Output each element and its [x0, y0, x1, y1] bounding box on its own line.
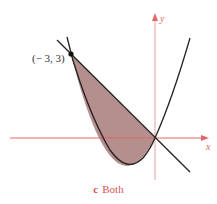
- caption-text: Both: [102, 183, 123, 195]
- intersection-point: [68, 51, 73, 56]
- point-label: (− 3, 3): [32, 52, 65, 65]
- x-axis-label: x: [205, 141, 211, 152]
- y-axis-label: y: [159, 13, 165, 24]
- figure-caption: cBoth: [0, 183, 217, 195]
- shaded-region: [71, 54, 155, 166]
- y-axis-arrow-icon: [152, 13, 158, 21]
- caption-letter: c: [93, 183, 98, 195]
- graph-figure: (− 3, 3) x y: [0, 0, 217, 204]
